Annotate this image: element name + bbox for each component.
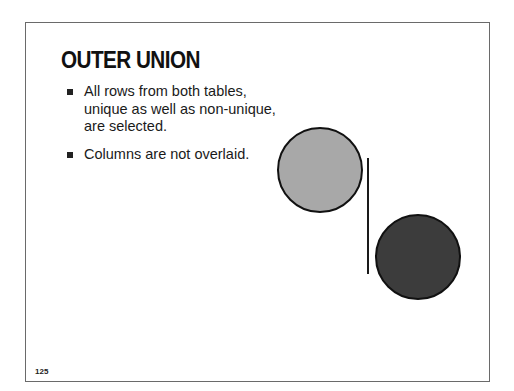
table-b-circle-icon [376, 215, 460, 299]
outer-union-diagram [0, 0, 514, 391]
table-a-circle-icon [278, 128, 362, 212]
